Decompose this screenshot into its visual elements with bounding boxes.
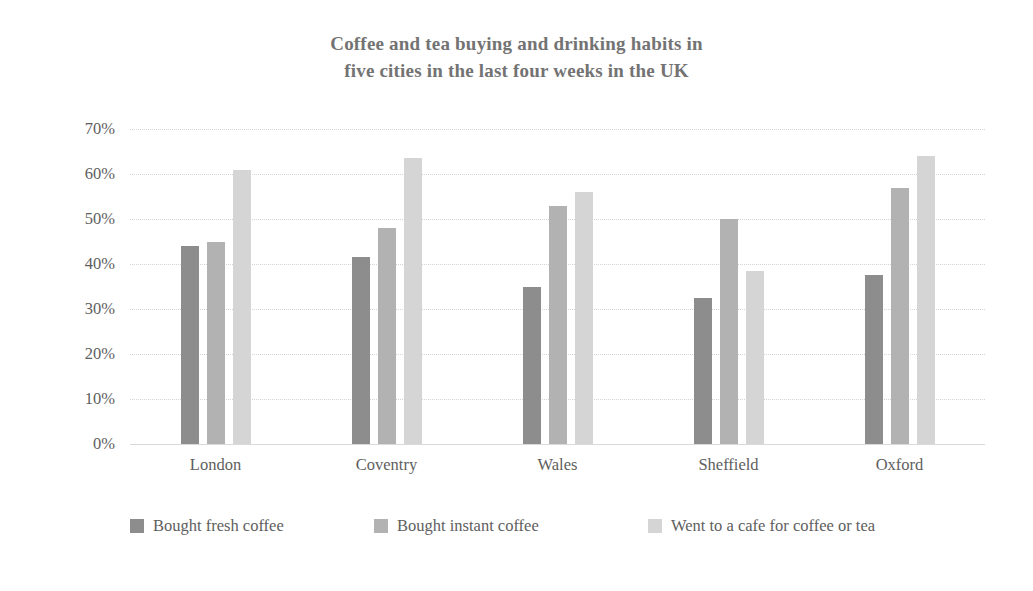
bar-group-oxford xyxy=(814,129,985,444)
y-axis-tick-label: 20% xyxy=(5,344,115,364)
bar-london-series-3[interactable] xyxy=(233,170,251,445)
x-axis: LondonCoventryWalesSheffieldOxford xyxy=(130,455,985,485)
y-axis-tick-label: 0% xyxy=(5,434,115,454)
bar-sheffield-series-3[interactable] xyxy=(746,271,764,444)
bar-group-sheffield xyxy=(643,129,814,444)
bar-sheffield-series-1[interactable] xyxy=(694,298,712,444)
bar-london-series-2[interactable] xyxy=(207,242,225,445)
x-axis-tick-label-coventry: Coventry xyxy=(356,455,417,475)
legend-item-2[interactable]: Bought instant coffee xyxy=(374,518,539,534)
legend-label: Bought instant coffee xyxy=(397,518,539,534)
bar-group-wales xyxy=(472,129,643,444)
bar-group-london xyxy=(130,129,301,444)
plot-area xyxy=(130,129,985,444)
bar-coventry-series-3[interactable] xyxy=(404,158,422,444)
y-axis-tick-label: 30% xyxy=(5,299,115,319)
bar-coventry-series-2[interactable] xyxy=(378,228,396,444)
y-axis-tick-label: 70% xyxy=(5,119,115,139)
legend-label: Bought fresh coffee xyxy=(153,518,284,534)
legend-swatch-icon xyxy=(130,519,144,533)
y-axis-tick-label: 10% xyxy=(5,389,115,409)
bar-london-series-1[interactable] xyxy=(181,246,199,444)
legend-label: Went to a cafe for coffee or tea xyxy=(671,518,875,534)
bar-wales-series-2[interactable] xyxy=(549,206,567,445)
chart-legend: Bought fresh coffeeBought instant coffee… xyxy=(130,518,930,548)
x-axis-tick-label-wales: Wales xyxy=(538,455,578,475)
legend-swatch-icon xyxy=(648,519,662,533)
chart-title-line-2: five cities in the last four weeks in th… xyxy=(0,57,1033,84)
y-axis: 0%10%20%30%40%50%60%70% xyxy=(0,0,130,591)
x-axis-tick-label-oxford: Oxford xyxy=(876,455,924,475)
bar-wales-series-3[interactable] xyxy=(575,192,593,444)
legend-item-1[interactable]: Bought fresh coffee xyxy=(130,518,284,534)
bar-chart-figure: Coffee and tea buying and drinking habit… xyxy=(0,0,1033,591)
bars-layer xyxy=(130,129,985,444)
x-axis-tick-label-london: London xyxy=(190,455,241,475)
bar-wales-series-1[interactable] xyxy=(523,287,541,445)
bar-oxford-series-3[interactable] xyxy=(917,156,935,444)
bar-oxford-series-2[interactable] xyxy=(891,188,909,445)
bar-oxford-series-1[interactable] xyxy=(865,275,883,444)
chart-title: Coffee and tea buying and drinking habit… xyxy=(0,30,1033,84)
x-axis-tick-label-sheffield: Sheffield xyxy=(698,455,758,475)
y-axis-tick-label: 60% xyxy=(5,164,115,184)
y-axis-tick-label: 50% xyxy=(5,209,115,229)
bar-coventry-series-1[interactable] xyxy=(352,257,370,444)
chart-title-line-1: Coffee and tea buying and drinking habit… xyxy=(0,30,1033,57)
legend-swatch-icon xyxy=(374,519,388,533)
y-axis-tick-label: 40% xyxy=(5,254,115,274)
legend-item-3[interactable]: Went to a cafe for coffee or tea xyxy=(648,518,875,534)
bar-group-coventry xyxy=(301,129,472,444)
bar-sheffield-series-2[interactable] xyxy=(720,219,738,444)
gridline-0% xyxy=(130,444,985,445)
